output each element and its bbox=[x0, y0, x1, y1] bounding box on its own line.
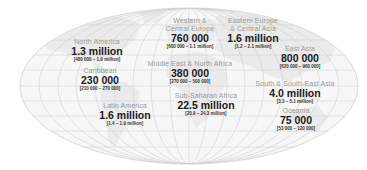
region-value: 760 000 bbox=[166, 33, 214, 44]
region-range: [1.2 – 2.1 million] bbox=[227, 44, 278, 50]
region-range: [480 000 – 1.9 million] bbox=[71, 57, 122, 63]
region-name-line1: Western & bbox=[166, 17, 214, 25]
region-eastern-europe-central-asia: Eastern Europe & Central Asia 1.6 millio… bbox=[227, 17, 278, 49]
region-latin-america: Latin America 1.6 million [1.4 – 1.9 mil… bbox=[99, 102, 150, 127]
region-value: 1.6 million bbox=[99, 110, 150, 121]
region-east-asia: East Asia 800 000 [620 000 – 960 000] bbox=[280, 45, 321, 70]
region-range: [270 000 – 500 000] bbox=[148, 79, 232, 85]
region-name-line2: & Central Asia bbox=[227, 25, 278, 33]
region-value: 1.3 million bbox=[71, 46, 122, 57]
region-value: 22.5 million bbox=[175, 100, 238, 111]
region-value: 230 000 bbox=[80, 75, 121, 86]
region-value: 75 000 bbox=[277, 115, 315, 126]
region-north-america: North America 1.3 million [480 000 – 1.9… bbox=[71, 38, 122, 63]
region-range: [20.9 – 24.3 million] bbox=[175, 111, 238, 117]
region-value: 800 000 bbox=[280, 53, 321, 64]
region-range: [53 000 – 120 000] bbox=[277, 126, 315, 132]
region-western-central-europe: Western & Central Europe 760 000 [600 00… bbox=[166, 17, 214, 49]
region-value: 4.0 million bbox=[256, 88, 335, 99]
region-name-line2: Central Europe bbox=[166, 25, 214, 33]
region-range: [620 000 – 960 000] bbox=[280, 64, 321, 70]
region-value: 1.6 million bbox=[227, 33, 278, 44]
region-range: [3.3 – 5.1 million] bbox=[256, 99, 335, 105]
region-value: 380 000 bbox=[148, 68, 232, 79]
region-name-line1: Eastern Europe bbox=[227, 17, 278, 25]
region-sub-saharan-africa: Sub-Saharan Africa 22.5 million [20.9 – … bbox=[175, 92, 238, 117]
region-middle-east-north-africa: Middle East & North Africa 380 000 [270 … bbox=[148, 60, 232, 85]
region-range: [1.4 – 1.9 million] bbox=[99, 121, 150, 127]
region-oceania: Oceania 75 000 [53 000 – 120 000] bbox=[277, 107, 315, 132]
region-range: [600 000 – 1.1 million] bbox=[166, 44, 214, 50]
region-caribbean: Caribbean 230 000 [210 000 – 270 000] bbox=[80, 67, 121, 92]
region-range: [210 000 – 270 000] bbox=[80, 86, 121, 92]
region-south-southeast-asia: South & South-East Asia 4.0 million [3.3… bbox=[256, 80, 335, 105]
